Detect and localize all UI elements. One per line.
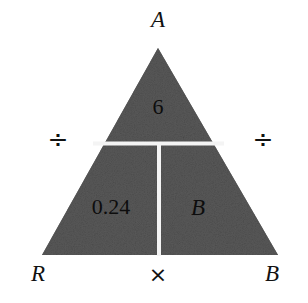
vertex-label-bottom-right: B (254, 262, 290, 285)
cell-value-bottom-left: 0.24 (78, 196, 144, 218)
cell-value-bottom-right: B (178, 196, 218, 219)
math-triangle-figure: 6 0.24 B A R B ÷ ÷ × (0, 0, 308, 303)
vertex-label-bottom-left: R (20, 262, 56, 285)
cell-value-top: 6 (135, 96, 181, 118)
divide-icon-left: ÷ (40, 127, 76, 152)
multiply-icon-bottom: × (140, 264, 176, 286)
divide-icon-right: ÷ (245, 127, 281, 152)
vertex-label-apex: A (140, 8, 176, 31)
